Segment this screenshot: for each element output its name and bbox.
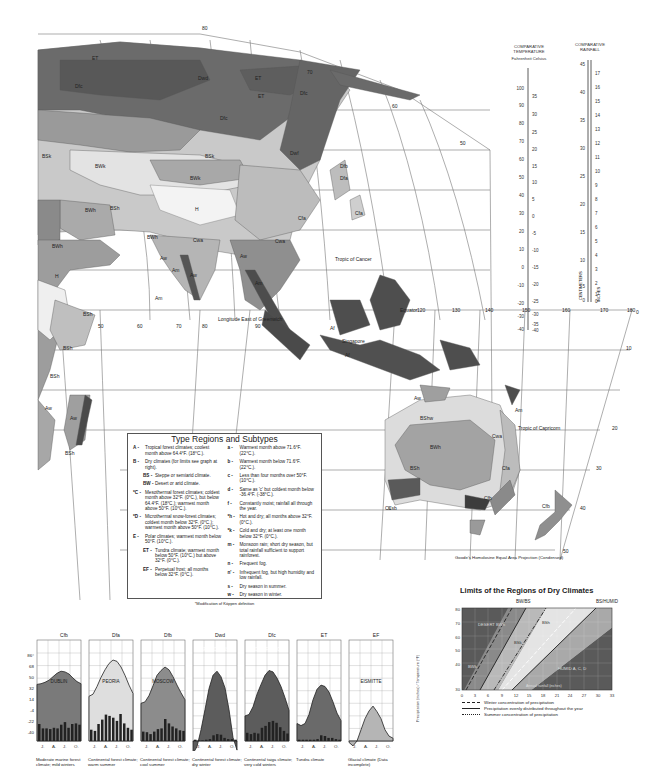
svg-text:0: 0 xyxy=(461,693,464,698)
region-label-desert: DESERT BWh xyxy=(478,622,506,627)
svg-text:60: 60 xyxy=(392,103,398,109)
svg-text:15: 15 xyxy=(595,99,601,104)
dry-chart-x-ticks: 03 69 1215 1821 2427 3033 xyxy=(461,693,615,698)
svg-text:BShw: BShw xyxy=(420,415,433,421)
svg-text:BWk: BWk xyxy=(190,175,201,181)
svg-text:J.: J. xyxy=(145,744,148,749)
svg-text:14: 14 xyxy=(595,113,601,118)
svg-text:-5: -5 xyxy=(532,231,536,236)
dry-climates-chart: DESERT BWh BWk BSh BSk HUMID A, C, D BW/… xyxy=(446,596,632,716)
svg-text:6: 6 xyxy=(487,693,490,698)
climograph-plot: MOOSE FACTORYJ.A.J.O. xyxy=(244,639,290,751)
svg-text:4: 4 xyxy=(595,253,598,258)
climograph-dwd: DwdVERKHOYANSKJ.A.J.O.Continental forest… xyxy=(192,632,248,767)
svg-text:-30: -30 xyxy=(517,314,524,319)
svg-text:40: 40 xyxy=(580,505,586,511)
svg-text:Cwa: Cwa xyxy=(275,238,285,244)
svg-text:O.: O. xyxy=(334,744,339,749)
svg-text:50: 50 xyxy=(98,323,104,329)
legend-item: n -Frequent fog. xyxy=(228,561,317,566)
svg-text:45: 45 xyxy=(580,62,586,67)
legend-item: B -Dry climates (for limits see graph at… xyxy=(133,459,222,470)
svg-text:16: 16 xyxy=(595,85,601,90)
legend-item: c -Less than four months over 50°F. (10°… xyxy=(228,473,317,484)
svg-text:Dfa: Dfa xyxy=(340,175,348,181)
svg-text:Cs: Cs xyxy=(385,505,392,511)
svg-text:80: 80 xyxy=(202,25,208,31)
svg-text:30: 30 xyxy=(519,211,525,216)
svg-text:Am: Am xyxy=(255,280,263,286)
svg-text:J.: J. xyxy=(41,744,44,749)
svg-text:30: 30 xyxy=(596,465,602,471)
svg-text:Cwa: Cwa xyxy=(492,433,502,439)
legend-item: d -Same as 'c' but coldest month below -… xyxy=(228,487,317,498)
svg-text:J.: J. xyxy=(115,744,118,749)
svg-text:J.: J. xyxy=(167,744,170,749)
svg-text:O.: O. xyxy=(178,744,183,749)
svg-text:20: 20 xyxy=(612,425,618,431)
svg-text:70: 70 xyxy=(176,323,182,329)
bottom-arrow-label: Annual rainfall (inches) xyxy=(526,684,562,688)
svg-text:Cwa: Cwa xyxy=(193,237,203,243)
tropic-capricorn-label: Tropic of Capricorn xyxy=(518,425,561,431)
svg-text:H: H xyxy=(195,206,199,212)
region-label-bwk: BWk xyxy=(468,664,478,669)
climograph-code: Dfa xyxy=(88,632,144,639)
svg-text:0: 0 xyxy=(521,265,524,270)
line-key-summer: Summer concentration of precipitation xyxy=(462,712,583,718)
svg-text:15: 15 xyxy=(580,230,586,235)
svg-text:-30: -30 xyxy=(532,312,539,317)
svg-text:Aw: Aw xyxy=(70,415,77,421)
svg-text:80: 80 xyxy=(519,121,525,126)
climograph-caption: Continental forest climate; warm summer xyxy=(88,757,144,767)
inch-ticks: 17 16 15 14 13 12 11 10 9 8 7 6 5 4 3 2 … xyxy=(595,71,601,304)
svg-text:BSk: BSk xyxy=(42,153,52,159)
svg-text:40: 40 xyxy=(519,193,525,198)
svg-text:BWk: BWk xyxy=(95,163,106,169)
climograph-ef: EFEISMITTEJ.A.J.O.Glacial climate (Data … xyxy=(348,632,404,767)
svg-text:-25: -25 xyxy=(532,299,539,304)
legend-item: n' -Infrequent fog, but high humidity an… xyxy=(228,570,317,581)
region-label-humid: HUMID A, C, D xyxy=(558,666,586,671)
svg-text:10: 10 xyxy=(626,345,632,351)
svg-text:Am: Am xyxy=(515,407,523,413)
climograph-caption: Glacial climate (Data incomplete) xyxy=(348,757,404,767)
svg-text:Dfc: Dfc xyxy=(75,83,83,89)
south-asia-land xyxy=(150,235,480,380)
svg-text:Dwd: Dwd xyxy=(198,75,208,81)
svg-text:35: 35 xyxy=(532,94,538,99)
projection-caption: Goode's Homolosine Equal Area Projection… xyxy=(455,555,563,560)
svg-text:80: 80 xyxy=(455,607,460,612)
svg-text:10: 10 xyxy=(580,258,586,263)
svg-text:Aw: Aw xyxy=(45,405,52,411)
dry-chart-title: Limits of the Regions of Dry Climates xyxy=(460,586,593,595)
climograph-et: ETBARROWJ.A.J.O.Tundra climate xyxy=(296,632,352,762)
svg-text:20: 20 xyxy=(519,229,525,234)
climograph-plot: BARROWJ.A.J.O. xyxy=(296,639,342,751)
station-label: PEORIA xyxy=(102,679,120,684)
svg-text:-10: -10 xyxy=(532,248,539,253)
region-label-bsk: BSk xyxy=(514,640,523,645)
svg-text:BSh: BSh xyxy=(110,205,120,211)
svg-text:5: 5 xyxy=(595,239,598,244)
svg-text:-20: -20 xyxy=(532,282,539,287)
svg-text:Aw: Aw xyxy=(190,272,197,278)
station-label: DUBLIN xyxy=(51,679,68,684)
legend-item: a -Warmest month above 71.6°F. (22°C.). xyxy=(228,445,317,456)
svg-text:-15: -15 xyxy=(532,265,539,270)
temperature-scale-title: COMPARATIVE TEMPERATURE xyxy=(507,44,551,54)
svg-text:90: 90 xyxy=(519,103,525,108)
svg-text:90: 90 xyxy=(255,323,261,329)
celsius-ticks: 35 30 25 20 15 10 5 0 -5 -10 -15 -20 -25… xyxy=(532,94,539,333)
svg-text:50: 50 xyxy=(519,175,525,180)
legend-item: m -Monsoon rain; short dry season, but t… xyxy=(228,542,317,558)
svg-text:33: 33 xyxy=(610,693,615,698)
svg-text:BSk: BSk xyxy=(205,153,215,159)
svg-text:60: 60 xyxy=(455,635,460,640)
svg-text:BWh: BWh xyxy=(430,444,441,450)
climograph-code: Dfc xyxy=(244,632,300,639)
climograph-code: EF xyxy=(348,632,404,639)
svg-text:A.: A. xyxy=(312,744,316,749)
climograph-caption: Continental taiga climate; very cold win… xyxy=(244,757,300,767)
svg-text:Cfb: Cfb xyxy=(484,495,492,501)
